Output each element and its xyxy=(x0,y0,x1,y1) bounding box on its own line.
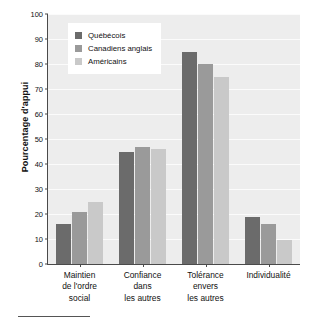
y-axis-tick-mark xyxy=(45,189,48,190)
legend-item: Québécois xyxy=(75,29,152,42)
x-axis-category-label-line: les autres xyxy=(174,293,237,304)
y-axis-tick-label: 50 xyxy=(35,135,43,144)
y-axis-tick-label: 10 xyxy=(35,235,43,244)
x-axis-category-label: Maintiende l'ordresocial xyxy=(48,270,111,304)
y-axis-tick-label: 70 xyxy=(35,85,43,94)
x-axis-tick-mark xyxy=(143,264,144,267)
bar xyxy=(245,217,260,265)
bar xyxy=(261,224,276,264)
y-axis-tick-mark xyxy=(45,14,48,15)
x-axis-line xyxy=(47,264,300,265)
x-axis-category-label-line: les autres xyxy=(111,293,174,304)
y-axis-title: Pourcentage d'appui xyxy=(20,57,30,197)
x-axis-category-label-line: social xyxy=(48,293,111,304)
x-axis-category-label-line: Confiance xyxy=(111,270,174,281)
y-axis-tick-label: 30 xyxy=(35,185,43,194)
y-axis-tick-label: 100 xyxy=(30,10,43,19)
legend-item-label: Américains xyxy=(88,57,127,66)
y-axis-tick-mark xyxy=(45,89,48,90)
bar-group xyxy=(182,14,229,264)
bar xyxy=(214,77,229,265)
bar xyxy=(135,147,150,265)
y-axis-tick-mark xyxy=(45,164,48,165)
bar xyxy=(182,52,197,265)
bar xyxy=(151,149,166,264)
y-axis-tick-mark xyxy=(45,39,48,40)
y-axis-tick-label: 60 xyxy=(35,110,43,119)
x-axis-category-label-line: Individualité xyxy=(237,270,300,281)
x-axis-tick-mark xyxy=(206,264,207,267)
legend-swatch-icon xyxy=(75,58,82,65)
y-axis-tick-label: 90 xyxy=(35,35,43,44)
x-axis-category-label: Individualité xyxy=(237,270,300,281)
bar xyxy=(198,64,213,264)
y-axis-tick-mark xyxy=(45,214,48,215)
legend-item-label: Québécois xyxy=(88,31,125,40)
y-axis-tick-mark xyxy=(45,114,48,115)
x-axis-category-label: Confiancedansles autres xyxy=(111,270,174,304)
legend-item: Américains xyxy=(75,55,152,68)
x-axis-category-label-line: envers xyxy=(174,281,237,292)
bar-chart-figure: Pourcentage d'appui 01020304050607080901… xyxy=(0,0,315,328)
x-axis-category-label-line: Maintien xyxy=(48,270,111,281)
x-axis-category-label-line: de l'ordre xyxy=(48,281,111,292)
y-axis-tick-mark xyxy=(45,139,48,140)
bar xyxy=(56,224,71,264)
y-axis-tick-label: 80 xyxy=(35,60,43,69)
y-axis-tick-label: 20 xyxy=(35,210,43,219)
y-axis-tick-mark xyxy=(45,239,48,240)
legend-item: Canadiens anglais xyxy=(75,42,152,55)
legend-item-label: Canadiens anglais xyxy=(88,44,152,53)
chart-legend: Québécois Canadiens anglais Américains xyxy=(68,23,161,74)
footer-rule xyxy=(18,316,90,317)
bar-group xyxy=(245,14,292,264)
x-axis-category-label-line: dans xyxy=(111,281,174,292)
x-axis-category-label-line: Tolérance xyxy=(174,270,237,281)
bar xyxy=(72,212,87,265)
y-axis-tick-label: 0 xyxy=(39,260,43,269)
legend-swatch-icon xyxy=(75,32,82,39)
y-axis-tick-mark xyxy=(45,264,48,265)
x-axis-tick-mark xyxy=(269,264,270,267)
x-axis-category-label: Toléranceenversles autres xyxy=(174,270,237,304)
y-axis-tick-label: 40 xyxy=(35,160,43,169)
bar xyxy=(119,152,134,265)
bar xyxy=(88,202,103,265)
y-axis-tick-mark xyxy=(45,64,48,65)
bar xyxy=(277,240,292,264)
x-axis-tick-mark xyxy=(80,264,81,267)
legend-swatch-icon xyxy=(75,45,82,52)
